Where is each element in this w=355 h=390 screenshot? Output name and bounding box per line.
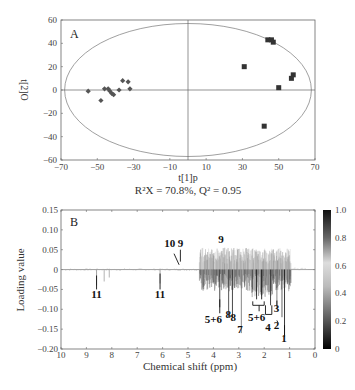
x-tick-label: 4 [211, 350, 216, 360]
x-tick-label: 1 [287, 350, 292, 360]
square-marker [276, 85, 281, 90]
x-tick-label: 5 [186, 350, 191, 360]
square-marker [271, 40, 276, 45]
y-tick-label: −0.10 [37, 304, 58, 314]
x-tick-label: 0 [313, 350, 318, 360]
model-stats-caption: R²X = 70.8%, Q² = 0.95 [135, 184, 242, 196]
y-tick-label: 0.05 [42, 245, 58, 255]
square-marker [291, 72, 296, 77]
y-tick-label: 0 [53, 85, 58, 95]
x-tick-label: 30 [238, 162, 248, 172]
peak-annotation: 7 [237, 323, 243, 335]
peak-annotation: 4 [265, 321, 271, 333]
score-points [86, 37, 296, 128]
figure: −70−50−30−10103050706040200−20−40−60 A t… [0, 0, 355, 390]
colorbar-tick-label: 1.0 [335, 205, 347, 215]
peak-annotation: 8 [230, 311, 236, 323]
x-tick-label: 10 [202, 162, 212, 172]
x-tick-label: 9 [84, 350, 89, 360]
y-tick-label: 0.10 [42, 225, 58, 235]
y-axis-label: Loading value [14, 248, 26, 311]
panel-a-scores-plot: −70−50−30−10103050706040200−20−40−60 A t… [19, 15, 320, 196]
peak-annotation: 3 [274, 302, 280, 314]
panel-label-a: A [70, 27, 79, 41]
colorbar-tick-label: 0 [335, 344, 340, 354]
y-tick-label: 0.15 [42, 205, 58, 215]
peak-annotations: 111110995+68875+64321 [91, 233, 286, 344]
square-marker [262, 124, 267, 129]
colorbar-tick-label: 0.8 [335, 233, 347, 243]
panel-b-loadings-plot: 1098765432100.150.100.050−0.05−0.10−0.15… [14, 205, 347, 373]
y-axis-label: t[2]O [19, 79, 30, 101]
peak-annotation: 5+6 [248, 311, 266, 323]
x-tick-label: 2 [262, 350, 267, 360]
y-tick-label: −0.15 [37, 324, 58, 334]
peak-annotation: 11 [91, 288, 101, 300]
diamond-marker [127, 86, 132, 91]
peak-annotation: 9 [178, 237, 184, 249]
peak-annotation: 5+6 [205, 313, 223, 325]
colorbar-tick-label: 0.4 [335, 288, 347, 298]
y-tick-label: −60 [43, 155, 58, 165]
colorbar-ticks: 1.00.80.60.40.20 [335, 205, 347, 354]
chart-canvas: −70−50−30−10103050706040200−20−40−60 A t… [0, 0, 355, 390]
square-marker [242, 64, 247, 69]
colorbar-tick-label: 0.6 [335, 261, 347, 271]
colorbar-tick-label: 0.2 [335, 316, 346, 326]
x-tick-label: −30 [127, 162, 142, 172]
y-tick-label: −40 [43, 132, 58, 142]
x-tick-label: 3 [237, 350, 242, 360]
x-tick-label: 7 [135, 350, 140, 360]
peak-annotation: 1 [281, 332, 287, 344]
y-tick-label: 40 [48, 38, 58, 48]
diamond-marker [116, 87, 121, 92]
peak-annotation: 9 [218, 233, 224, 245]
x-tick-label: 8 [110, 350, 115, 360]
y-tick-label: −20 [43, 108, 58, 118]
x-axis-label: Chemical shift (ppm) [143, 360, 237, 373]
diamond-marker [98, 98, 103, 103]
peak-annotation: 2 [274, 319, 280, 331]
x-axis-label: t[1]p [178, 172, 197, 183]
peak-annotation: 10 [164, 237, 176, 249]
y-tick-label: −0.20 [37, 344, 58, 354]
x-tick-label: −50 [90, 162, 105, 172]
x-tick-label: 70 [311, 162, 321, 172]
y-tick-label: 20 [48, 62, 58, 72]
x-tick-label: 50 [274, 162, 284, 172]
x-tick-label: −10 [163, 162, 178, 172]
y-tick-label: 0 [54, 265, 59, 275]
y-tick-label: 60 [48, 15, 58, 25]
diamond-marker [126, 79, 131, 84]
colorbar [323, 210, 331, 349]
diamond-marker [120, 78, 125, 83]
diamond-marker [86, 89, 91, 94]
peak-annotation: 11 [155, 288, 165, 300]
axis-ticks: −70−50−30−10103050706040200−20−40−60 [43, 15, 320, 172]
panel-label-b: B [70, 215, 78, 229]
y-tick-label: −0.05 [37, 284, 58, 294]
x-tick-label: 6 [160, 350, 165, 360]
